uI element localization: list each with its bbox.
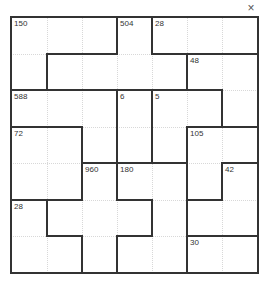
grid-cell[interactable] [82, 90, 117, 127]
cage-border [221, 235, 259, 237]
grid-cell[interactable] [82, 200, 117, 236]
grid-cell[interactable] [152, 54, 187, 90]
cage-border [186, 199, 223, 201]
grid-cell[interactable] [47, 163, 82, 200]
grid-cell[interactable] [222, 127, 258, 163]
cage-border [46, 53, 48, 91]
cage-border [116, 126, 118, 164]
cage-border [151, 16, 188, 18]
grid-cell[interactable] [47, 127, 82, 163]
grid-cell[interactable] [117, 127, 152, 163]
close-button[interactable]: × [244, 1, 258, 15]
grid-cell[interactable] [117, 236, 152, 273]
cage-border [221, 126, 259, 128]
grid-cell[interactable] [11, 54, 47, 90]
grid-cell[interactable] [82, 54, 117, 90]
cage-clue: 28 [155, 19, 164, 28]
grid-cell[interactable] [222, 200, 258, 236]
grid-cell[interactable] [47, 200, 82, 236]
grid-cell[interactable] [187, 200, 222, 236]
cage-border [116, 162, 153, 164]
cage-border [257, 162, 259, 201]
grid-cell[interactable] [152, 127, 187, 163]
cage-border [116, 89, 118, 128]
grid-cell[interactable] [222, 17, 258, 54]
grid-cell[interactable] [222, 236, 258, 273]
cage-clue: 588 [14, 92, 27, 101]
grid-cell[interactable] [47, 90, 82, 127]
grid-cell[interactable] [82, 236, 117, 273]
cage-border [46, 199, 48, 237]
grid-cell[interactable] [82, 17, 117, 54]
cage-border [10, 272, 48, 274]
cage-border [186, 272, 223, 274]
cage-border [116, 199, 153, 201]
cage-border [81, 16, 118, 18]
cage-border [10, 199, 12, 237]
cage-border [116, 235, 153, 237]
cage-border [221, 162, 223, 201]
grid-cell[interactable] [47, 17, 82, 54]
cage-border [81, 235, 83, 274]
cage-clue: 180 [120, 165, 133, 174]
cage-border [151, 53, 188, 55]
cage-border [81, 89, 118, 91]
cage-border [10, 16, 12, 55]
cage-border [116, 162, 118, 201]
cage-border [186, 235, 223, 237]
grid-cell[interactable] [11, 163, 47, 200]
grid-cell[interactable] [117, 200, 152, 236]
cage-clue: 6 [120, 92, 124, 101]
grid-cell[interactable] [47, 54, 82, 90]
cage-border [10, 89, 12, 128]
cage-border [46, 235, 83, 237]
grid-cell[interactable] [187, 90, 222, 127]
cage-clue: 150 [14, 19, 27, 28]
grid-cell[interactable] [222, 90, 258, 127]
grid-cell[interactable] [152, 200, 187, 236]
cage-border [10, 16, 48, 18]
cage-border [186, 126, 188, 164]
grid-cell[interactable] [222, 54, 258, 90]
cage-border [151, 272, 188, 274]
grid-cell[interactable] [187, 17, 222, 54]
cage-clue: 42 [225, 165, 234, 174]
cage-border [257, 126, 259, 164]
cage-border [10, 89, 48, 91]
cage-border [186, 53, 188, 91]
cage-clue: 30 [190, 238, 199, 247]
cage-border [10, 235, 12, 274]
grid-cell[interactable] [152, 163, 187, 200]
cage-border [81, 162, 83, 201]
cage-border [151, 126, 153, 164]
cage-border [10, 126, 48, 128]
grid-cell[interactable] [117, 54, 152, 90]
grid-cell[interactable] [152, 236, 187, 273]
cage-border [151, 89, 188, 91]
cage-border [151, 89, 153, 128]
grid-cell[interactable] [11, 236, 47, 273]
cage-border [46, 16, 83, 18]
cage-border [257, 53, 259, 91]
cage-clue: 48 [190, 56, 199, 65]
close-icon: × [247, 1, 254, 15]
cage-border [116, 235, 118, 274]
cage-border [116, 272, 153, 274]
cage-border [186, 89, 223, 91]
cage-border [221, 16, 259, 18]
cage-border [257, 199, 259, 237]
cage-clue: 28 [14, 202, 23, 211]
cage-border [186, 53, 223, 55]
cage-clue: 72 [14, 129, 23, 138]
cage-clue: 5 [155, 92, 159, 101]
grid-cell[interactable] [47, 236, 82, 273]
cage-border [186, 16, 223, 18]
grid-cell[interactable] [187, 163, 222, 200]
cage-border [81, 53, 118, 55]
cage-border [186, 235, 188, 274]
cage-border [116, 89, 153, 91]
cage-border [186, 199, 188, 237]
cage-border [151, 162, 188, 164]
cage-border [116, 16, 118, 55]
grid-cell[interactable] [82, 127, 117, 163]
